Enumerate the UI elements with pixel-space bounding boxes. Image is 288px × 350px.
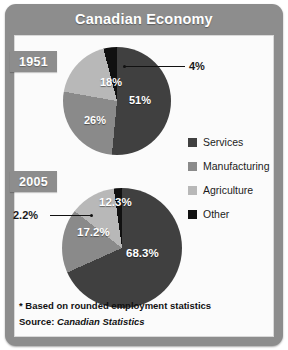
- legend-item-other: Other: [188, 202, 270, 226]
- leader-dot-2005-other: [90, 214, 93, 217]
- legend-swatch-services-icon: [188, 138, 197, 147]
- legend: Services Manufacturing Agriculture Other: [188, 130, 270, 226]
- slice-label-2005-agriculture: 12.3%: [99, 196, 132, 208]
- leader-line-2005-other: [50, 215, 92, 216]
- callout-label-2005-other: 2.2%: [13, 209, 38, 221]
- title-bar: Canadian Economy: [5, 4, 283, 33]
- footnote-source: Source: Canadian Statistics: [19, 316, 211, 327]
- legend-label-agriculture: Agriculture: [203, 184, 253, 196]
- slice-label-1951-manufacturing: 26%: [84, 114, 106, 126]
- slice-label-1951-services: 51%: [129, 94, 151, 106]
- legend-item-manufacturing: Manufacturing: [188, 154, 270, 178]
- page-title: Canadian Economy: [75, 11, 213, 27]
- slice-label-2005-services: 68.3%: [126, 247, 159, 259]
- footnote-source-name: Canadian Statistics: [57, 316, 145, 327]
- legend-swatch-agriculture-icon: [188, 186, 197, 195]
- leader-line-1951-other: [125, 66, 185, 67]
- footnote-note: * Based on rounded employment statistics: [19, 300, 211, 311]
- legend-label-services: Services: [203, 136, 243, 148]
- footnote-source-prefix: Source:: [19, 316, 57, 327]
- year-badge-2005: 2005: [10, 171, 57, 192]
- legend-item-agriculture: Agriculture: [188, 178, 270, 202]
- footnotes: * Based on rounded employment statistics…: [19, 300, 211, 332]
- legend-label-other: Other: [203, 208, 229, 220]
- infographic-frame: Canadian Economy 1951 51% 26% 18% 4% Ser…: [5, 4, 283, 346]
- slice-label-2005-manufacturing: 17.2%: [77, 226, 110, 238]
- legend-swatch-other-icon: [188, 210, 197, 219]
- slice-label-1951-agriculture: 18%: [100, 76, 122, 88]
- legend-label-manufacturing: Manufacturing: [203, 160, 270, 172]
- legend-item-services: Services: [188, 130, 270, 154]
- pie-chart-1951: [63, 47, 171, 155]
- callout-label-1951-other: 4%: [189, 60, 205, 72]
- legend-swatch-manufacturing-icon: [188, 162, 197, 171]
- year-badge-1951: 1951: [10, 51, 57, 72]
